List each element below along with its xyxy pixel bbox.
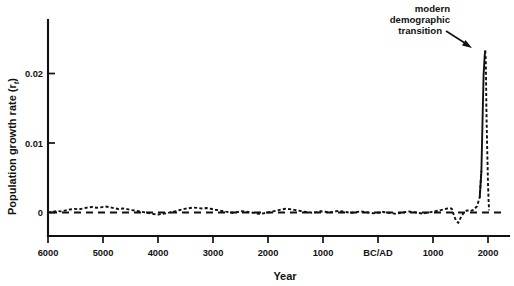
data-series-line (48, 171, 481, 223)
x-tick-label-1: 5000 (93, 248, 114, 258)
y-tick-label-0: 0 (38, 208, 43, 218)
x-tick-label-7: 1000 (423, 248, 444, 258)
y-axis-title-close: ) (6, 78, 18, 82)
annotation-line-3: transition (398, 25, 442, 36)
y-axis-title-main: Population growth rate (r (6, 84, 18, 215)
y-axis-title-text: Population growth rate (rt) (6, 78, 21, 215)
x-tick-label-8: 2000 (478, 248, 499, 258)
data-series-spike-solid (480, 51, 486, 198)
x-tick-label-3: 3000 (203, 248, 224, 258)
y-tick-label-001: 0.01 (25, 139, 43, 149)
annotation-line-2: demographic (390, 14, 451, 25)
x-tick-label-6: BC/AD (363, 248, 393, 258)
x-tick-label-0: 6000 (38, 248, 59, 258)
y-tick-label-002: 0.02 (25, 69, 43, 79)
x-tick-label-5: 1000 (313, 248, 334, 258)
chart-svg: Population growth rate (rt) 0 0.01 0.02 (0, 0, 514, 286)
annotation-line-1: modern (415, 3, 450, 14)
x-tick-label-2: 4000 (148, 248, 169, 258)
y-axis-title: Population growth rate (rt) (6, 78, 21, 215)
x-ticks: 6000 5000 4000 3000 2000 1000 BC/AD 1000… (38, 236, 499, 258)
y-ticks: 0 0.01 0.02 (25, 69, 55, 218)
x-axis-title: Year (273, 270, 297, 282)
data-series-spike-descent (485, 51, 489, 211)
annotation-modern-demographic-transition: modern demographic transition (390, 3, 472, 48)
population-growth-rate-chart: Population growth rate (rt) 0 0.01 0.02 (0, 0, 514, 286)
x-tick-label-4: 2000 (258, 248, 279, 258)
